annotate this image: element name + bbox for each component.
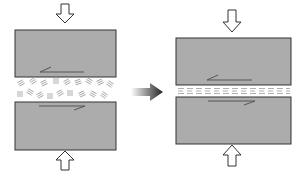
compression-arrow-up-icon [56,151,74,170]
bottom-plate [15,102,116,150]
top-plate [15,30,116,77]
right-panel [176,10,291,166]
aligned-particles [178,89,290,94]
compression-arrow-down-icon [223,10,241,32]
left-panel [15,4,116,170]
compression-arrow-up-icon [223,145,241,166]
transition-arrow-icon [131,83,163,101]
top-plate [176,38,291,85]
disordered-particles [17,78,114,99]
compression-arrow-down-icon [56,4,74,23]
bottom-plate [176,97,291,144]
diagram-canvas [0,0,300,180]
